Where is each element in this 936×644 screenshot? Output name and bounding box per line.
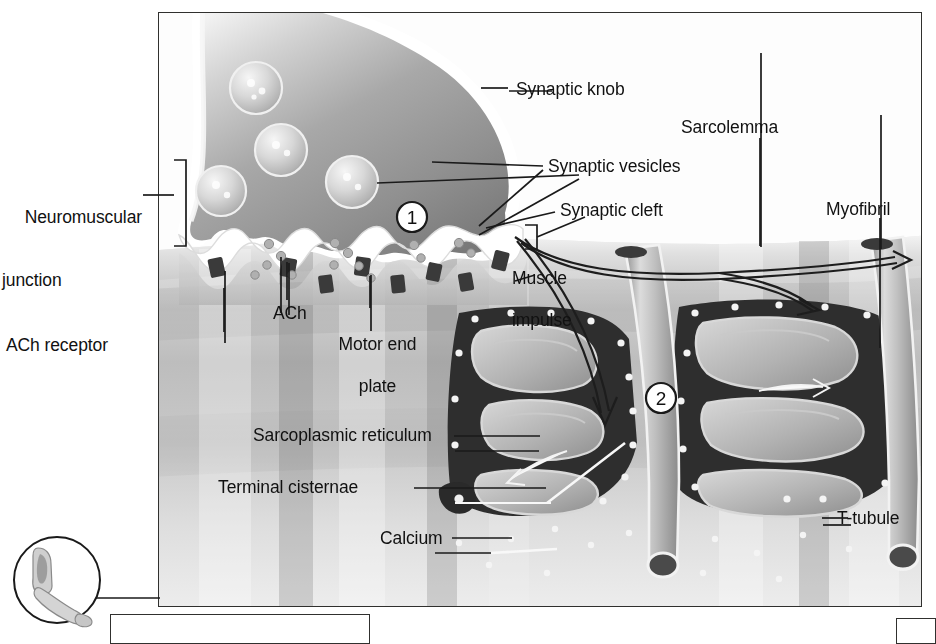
label-synaptic-knob: Synaptic knob: [516, 79, 625, 100]
label-ach: ACh: [273, 303, 307, 324]
label-sarcolemma: Sarcolemma: [681, 117, 778, 138]
label-sarcoplasmic-reticulum: Sarcoplasmic reticulum: [253, 425, 432, 446]
bottom-caption-box: [110, 614, 370, 644]
label-motor-end-plate: Motor end plate: [318, 313, 418, 418]
label-synaptic-vesicles: Synaptic vesicles: [548, 156, 681, 177]
step-marker-1: 1: [397, 202, 427, 232]
label-calcium: Calcium: [380, 528, 443, 549]
label-myofibril: Myofibril: [826, 199, 890, 220]
label-synaptic-cleft: Synaptic cleft: [560, 200, 663, 221]
step-2-number: 2: [656, 388, 667, 409]
label-ach-receptor: ACh receptor: [6, 335, 108, 356]
label-muscle-impulse: Muscle impulse: [493, 247, 572, 352]
label-neuromuscular-junction: Neuromuscular junction: [2, 186, 142, 333]
bottom-right-box: [896, 618, 936, 644]
step-1-number: 1: [407, 207, 418, 228]
step-marker-2: 2: [646, 383, 676, 413]
label-t-tubule: T-tubule: [837, 508, 899, 529]
label-terminal-cisternae: Terminal cisternae: [218, 477, 358, 498]
